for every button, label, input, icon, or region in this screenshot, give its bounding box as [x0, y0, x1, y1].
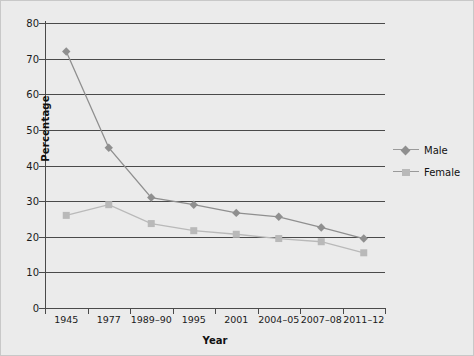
data-point-male-3: [190, 200, 198, 208]
data-point-female-0: [63, 212, 70, 219]
x-tick-label: 2001: [224, 314, 248, 325]
y-tick-label: 10: [13, 267, 39, 278]
data-point-female-7: [360, 249, 367, 256]
x-tick-label: 2007–08: [301, 314, 342, 325]
x-tick-label: 1945: [54, 314, 78, 325]
x-axis-title: Year: [45, 335, 385, 346]
chart-legend: Male Female: [393, 139, 471, 183]
y-tick-label: 60: [13, 89, 39, 100]
y-tick-label: 40: [13, 160, 39, 171]
legend-item-male[interactable]: Male: [393, 139, 471, 161]
data-point-male-5: [275, 213, 283, 221]
legend-item-female[interactable]: Female: [393, 161, 471, 183]
data-point-female-6: [318, 238, 325, 245]
x-tick-label: 2011–12: [343, 314, 384, 325]
chart-figure: 01020304050607080 Percentage 19451977198…: [0, 0, 474, 356]
data-point-male-7: [360, 234, 368, 242]
y-tick-label: 80: [13, 18, 39, 29]
series-line-male: [66, 52, 364, 239]
x-tick-label: 1977: [97, 314, 121, 325]
x-axis-tick-labels: 194519771989–90199520012004–052007–08201…: [45, 314, 385, 330]
data-point-male-0: [62, 47, 70, 55]
x-tick-mark: [385, 308, 386, 314]
plot-area: [45, 23, 385, 308]
data-point-female-4: [233, 231, 240, 238]
x-tick-label: 1989–90: [131, 314, 172, 325]
x-tick-label: 2004–05: [258, 314, 299, 325]
series-layer: [45, 23, 385, 308]
y-axis-ticks: 01020304050607080: [9, 23, 39, 308]
legend-marker-diamond-icon: [393, 144, 419, 156]
y-tick-label: 0: [13, 303, 39, 314]
y-tick-label: 20: [13, 231, 39, 242]
y-tick-label: 70: [13, 53, 39, 64]
data-point-female-2: [148, 220, 155, 227]
legend-label-male: Male: [424, 145, 448, 156]
data-point-male-4: [232, 209, 240, 217]
y-tick-label: 50: [13, 124, 39, 135]
x-tick-label: 1995: [182, 314, 206, 325]
y-tick-label: 30: [13, 196, 39, 207]
legend-marker-square-icon: [393, 166, 419, 178]
data-point-female-1: [105, 201, 112, 208]
data-point-female-5: [275, 235, 282, 242]
data-point-male-6: [317, 223, 325, 231]
legend-label-female: Female: [424, 167, 460, 178]
data-point-female-3: [190, 227, 197, 234]
